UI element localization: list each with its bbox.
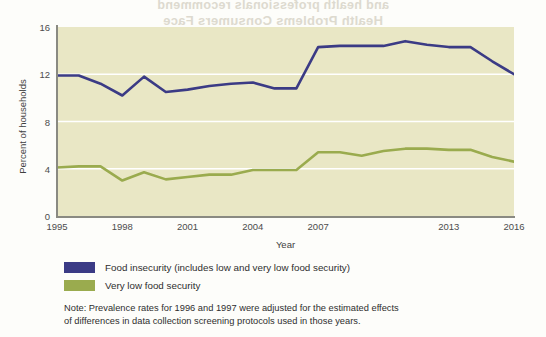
chart-legend: Food insecurity (includes low and very l…	[64, 259, 350, 295]
x-axis-line	[56, 216, 515, 218]
x-tick-label-2001: 2001	[177, 221, 198, 232]
chart-note-line-1: Note: Prevalence rates for 1996 and 1997…	[64, 302, 494, 315]
y-axis-title: Percent of households	[17, 57, 28, 197]
legend-label-1: Very low food security	[105, 280, 200, 291]
series-line-0	[57, 41, 514, 95]
chart-note: Note: Prevalence rates for 1996 and 1997…	[64, 302, 494, 329]
x-tick-label-2013: 2013	[438, 221, 459, 232]
chart-note-line-2: of differences in data collection screen…	[64, 315, 494, 328]
y-tick-label-16: 16	[4, 22, 50, 33]
legend-swatch-0	[64, 262, 95, 273]
plot-lines	[57, 27, 514, 216]
x-tick-label-1998: 1998	[112, 221, 133, 232]
x-tick-label-2007: 2007	[308, 221, 329, 232]
y-tick-label-0: 0	[4, 211, 50, 222]
legend-swatch-1	[64, 280, 95, 291]
food-insecurity-line-chart: 0481216 1995199820012004200720132016 Yea…	[0, 0, 546, 337]
x-axis-tick-labels: 1995199820012004200720132016	[0, 221, 546, 237]
y-axis-line	[56, 25, 58, 218]
legend-item-1: Very low food security	[64, 277, 350, 293]
legend-item-0: Food insecurity (includes low and very l…	[64, 259, 350, 275]
legend-label-0: Food insecurity (includes low and very l…	[105, 262, 350, 273]
x-axis-title: Year	[57, 239, 514, 250]
x-tick-label-2004: 2004	[242, 221, 263, 232]
plot-region	[57, 27, 514, 216]
x-tick-label-1995: 1995	[46, 221, 67, 232]
x-tick-label-2016: 2016	[503, 221, 524, 232]
series-line-1	[57, 149, 514, 181]
